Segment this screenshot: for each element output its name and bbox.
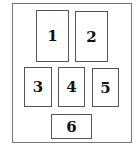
box-1: 1 (36, 10, 69, 62)
box-3-label: 3 (33, 78, 43, 96)
box-4: 4 (58, 67, 85, 107)
box-5-label: 5 (100, 79, 110, 97)
box-6: 6 (51, 114, 92, 139)
box-3: 3 (24, 67, 52, 107)
box-6-label: 6 (66, 118, 76, 136)
box-2-label: 2 (86, 28, 96, 46)
box-4-label: 4 (66, 78, 76, 96)
box-1-label: 1 (47, 27, 57, 45)
box-2: 2 (75, 11, 108, 62)
box-5: 5 (92, 68, 119, 107)
